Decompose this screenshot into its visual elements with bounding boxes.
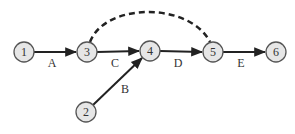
- node-label: 2: [83, 105, 89, 119]
- node-2: 2: [76, 102, 96, 122]
- edge-label-B: B: [121, 82, 129, 96]
- node-label: 3: [84, 45, 90, 59]
- node-4: 4: [140, 41, 160, 61]
- edge-label-A: A: [48, 56, 57, 70]
- edge-C: [97, 51, 139, 52]
- diagram-canvas: A C D E B 1 2 3 4 5 6: [0, 0, 295, 134]
- node-3: 3: [77, 42, 97, 62]
- node-6: 6: [266, 42, 286, 62]
- node-label: 6: [273, 45, 279, 59]
- node-label: 4: [147, 44, 153, 58]
- edge-label-D: D: [174, 56, 183, 70]
- node-label: 5: [210, 45, 216, 59]
- dummy-arc-3-5: [90, 12, 210, 42]
- node-5: 5: [203, 42, 223, 62]
- edge-D: [160, 51, 202, 52]
- edge-label-C: C: [111, 56, 119, 70]
- edge-label-E: E: [237, 56, 244, 70]
- node-1: 1: [14, 42, 34, 62]
- network-diagram: A C D E B 1 2 3 4 5 6: [0, 0, 295, 134]
- node-label: 1: [21, 45, 27, 59]
